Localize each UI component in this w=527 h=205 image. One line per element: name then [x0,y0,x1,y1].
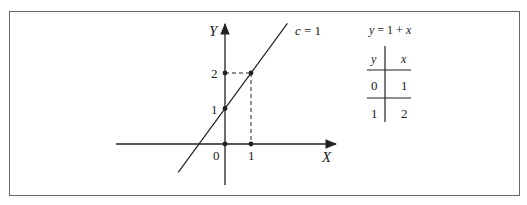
diagram-canvas: 112 X Y 0 c = 1 y = 1 + x yx0112 [0,0,527,205]
data-point [249,71,254,76]
y-tick-label: 2 [211,66,218,81]
table-cell: 1 [401,78,408,93]
table-header: x [400,52,407,66]
data-point [223,106,228,111]
data-point [249,142,254,147]
line-c-1 [178,23,287,172]
table-header: y [370,52,377,66]
origin-label: 0 [213,148,220,163]
table-cell: 1 [371,106,378,121]
table-cell: 2 [401,106,408,121]
x-axis-label: X [321,149,332,165]
line-label: c = 1 [295,23,321,38]
value-table: yx0112 [367,46,411,122]
x-tick-label: 1 [248,148,255,163]
y-axis-label: Y [209,23,219,39]
y-tick-label: 1 [211,102,218,117]
table-equation: y = 1 + x [368,23,412,37]
data-point [223,142,228,147]
table-cell: 0 [371,78,378,93]
data-point [223,71,228,76]
